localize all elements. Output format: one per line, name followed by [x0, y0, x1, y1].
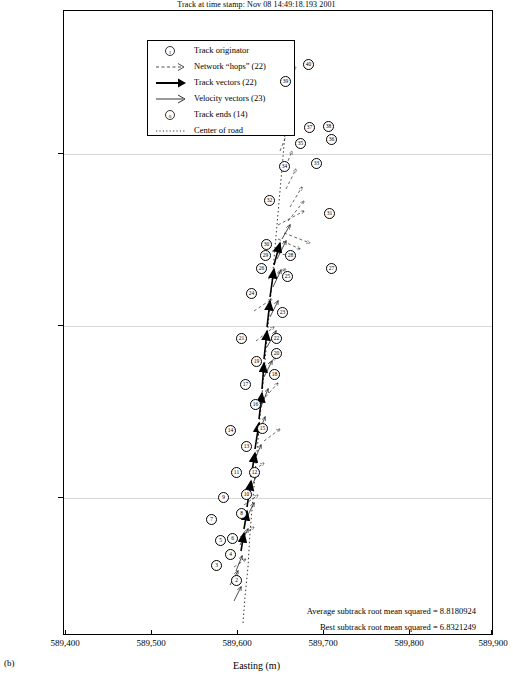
legend-label: Track originator: [194, 45, 249, 55]
track-node[interactable]: 2: [231, 575, 242, 586]
track-node[interactable]: 3: [211, 560, 222, 571]
dotted-line-icon: [152, 123, 192, 139]
track-node[interactable]: 21: [236, 333, 247, 344]
track-node[interactable]: 12: [249, 467, 260, 478]
legend-item-network-hops: Network “hops” (22): [148, 59, 296, 75]
track-node[interactable]: 22: [271, 333, 282, 344]
track-node[interactable]: 18: [269, 369, 280, 380]
x-tick-0: 589,400: [25, 638, 105, 648]
track-node[interactable]: 29: [260, 250, 271, 261]
track-node[interactable]: 10: [241, 489, 252, 500]
track-node[interactable]: 9: [218, 492, 229, 503]
track-node[interactable]: 38: [323, 121, 334, 132]
center-of-road-line: [243, 55, 292, 623]
annotation-average-rms: Average subtrack root mean squared = 8.8…: [307, 606, 476, 616]
track-node[interactable]: 33: [311, 158, 322, 169]
legend-label: Track vectors (22): [194, 77, 256, 87]
legend-label: Network “hops” (22): [194, 61, 266, 71]
track-node[interactable]: 8: [236, 508, 247, 519]
track-node[interactable]: 25: [282, 271, 293, 282]
x-tick-2: 589,600: [197, 638, 277, 648]
annotation-best-rms: Best subtrack root mean squared = 6.8321…: [320, 622, 476, 632]
track-node[interactable]: 32: [264, 195, 275, 206]
track-node[interactable]: 40: [303, 59, 314, 70]
track-node[interactable]: 34: [279, 161, 290, 172]
track-node[interactable]: 5: [215, 535, 226, 546]
solid-thick-arrow-icon: [152, 75, 192, 91]
track-node[interactable]: 24: [246, 288, 257, 299]
dashed-arrow-icon: [152, 59, 192, 75]
x-tick-4: 589,800: [369, 638, 449, 648]
solid-thin-arrow-icon: [152, 91, 192, 107]
track-node[interactable]: 19: [251, 356, 262, 367]
legend-item-center-of-road: Center of road: [148, 123, 296, 139]
chart-title: Track at time stamp: Nov 08 14:49:18.193…: [0, 0, 513, 9]
x-tick-1: 589,500: [111, 638, 191, 648]
chart-legend: 1 Track originator Network “hops” (22) T…: [147, 40, 295, 136]
track-node[interactable]: 30: [261, 239, 272, 250]
track-node[interactable]: 6: [227, 533, 238, 544]
track-node[interactable]: 16: [250, 399, 261, 410]
track-node[interactable]: 4: [225, 549, 236, 560]
circle-marker-icon: 1: [152, 43, 192, 59]
track-node[interactable]: 28: [285, 250, 296, 261]
legend-label: Center of road: [194, 125, 243, 135]
track-node[interactable]: 17: [240, 379, 251, 390]
circle-marker-icon: 0: [152, 107, 192, 123]
x-axis-label: Easting (m): [0, 660, 513, 671]
legend-label: Velocity vectors (23): [194, 93, 265, 103]
legend-label: Track ends (14): [194, 109, 248, 119]
track-node[interactable]: 14: [225, 425, 236, 436]
track-node[interactable]: 7: [206, 514, 217, 525]
legend-item-track-originator: 1 Track originator: [148, 43, 296, 59]
plot-area: 2 3 4 5 6 7 8 9 10 11 12 13 14 15 16 17 …: [63, 10, 493, 635]
legend-item-velocity-vectors: Velocity vectors (23): [148, 91, 296, 107]
track-node[interactable]: 15: [257, 423, 268, 434]
track-node[interactable]: 23: [277, 307, 288, 318]
panel-letter: (b): [4, 658, 15, 668]
track-node[interactable]: 39: [280, 76, 291, 87]
track-node[interactable]: 36: [326, 134, 337, 145]
x-tick-5: 589,900: [453, 638, 513, 648]
track-node[interactable]: 35: [295, 138, 306, 149]
track-node[interactable]: 37: [304, 122, 315, 133]
track-node[interactable]: 11: [231, 467, 242, 478]
legend-item-track-vectors: Track vectors (22): [148, 75, 296, 91]
x-tick-3: 589,700: [283, 638, 363, 648]
track-node[interactable]: 26: [256, 263, 267, 274]
track-node[interactable]: 31: [324, 208, 335, 219]
track-node[interactable]: 13: [241, 441, 252, 452]
track-node[interactable]: 20: [271, 348, 282, 359]
legend-item-track-ends: 0 Track ends (14): [148, 107, 296, 123]
track-node[interactable]: 27: [326, 263, 337, 274]
